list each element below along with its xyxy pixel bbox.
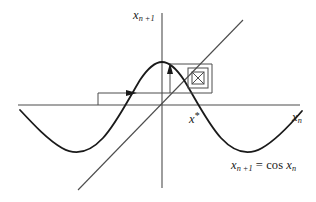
equation-function-name: cos (266, 158, 286, 172)
y-axis-label-base: x (133, 8, 139, 22)
y-axis-label: xn +1 (133, 9, 155, 22)
cosine-curve (20, 62, 302, 152)
y-axis-label-subscript: n +1 (139, 14, 155, 23)
x-axis-label-base: x (292, 110, 298, 124)
vertical-arrow-icon (167, 63, 173, 74)
x-axis-label-subscript: n (298, 116, 302, 125)
cobweb-figure: xn +1 xn x* xn +1 = cos xn (0, 0, 316, 202)
fixed-point-label-star: * (195, 110, 200, 121)
equation-argument-subscript: n (292, 164, 296, 173)
fixed-point-label-base: x (189, 112, 195, 126)
equation-relation: = (253, 158, 267, 172)
fixed-point-label: x* (189, 113, 200, 126)
equation-lhs-subscript: n +1 (237, 164, 253, 173)
equation-label: xn +1 = cos xn (231, 159, 296, 172)
equation-lhs-base: x (231, 158, 237, 172)
x-axis-label: xn (292, 111, 302, 124)
